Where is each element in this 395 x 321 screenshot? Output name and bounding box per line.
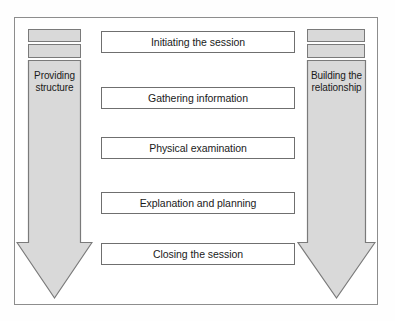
process-box-physical-examination[interactable]: Physical examination	[101, 137, 295, 159]
building-the-relationship-arrow: Building the relationship	[296, 60, 376, 300]
left-mini-bar-top	[28, 29, 81, 42]
right-mini-bar-top	[307, 29, 365, 42]
process-box-label: Initiating the session	[151, 36, 245, 48]
process-box-gathering-information[interactable]: Gathering information	[101, 87, 295, 109]
diagram-canvas: Providing structure Initiating the sessi…	[0, 0, 395, 321]
process-box-label: Explanation and planning	[140, 197, 257, 209]
down-arrow-icon	[296, 60, 376, 300]
down-arrow-icon	[16, 60, 93, 300]
process-box-explanation-and-planning[interactable]: Explanation and planning	[101, 192, 295, 214]
providing-structure-arrow: Providing structure	[16, 60, 93, 300]
process-box-label: Gathering information	[148, 92, 248, 104]
process-box-closing-the-session[interactable]: Closing the session	[101, 243, 295, 265]
process-box-label: Physical examination	[149, 142, 247, 154]
process-box-initiating-the-session[interactable]: Initiating the session	[101, 31, 295, 53]
right-mini-bar-second	[307, 44, 365, 58]
left-mini-bar-second	[28, 44, 81, 58]
process-box-label: Closing the session	[153, 248, 243, 260]
